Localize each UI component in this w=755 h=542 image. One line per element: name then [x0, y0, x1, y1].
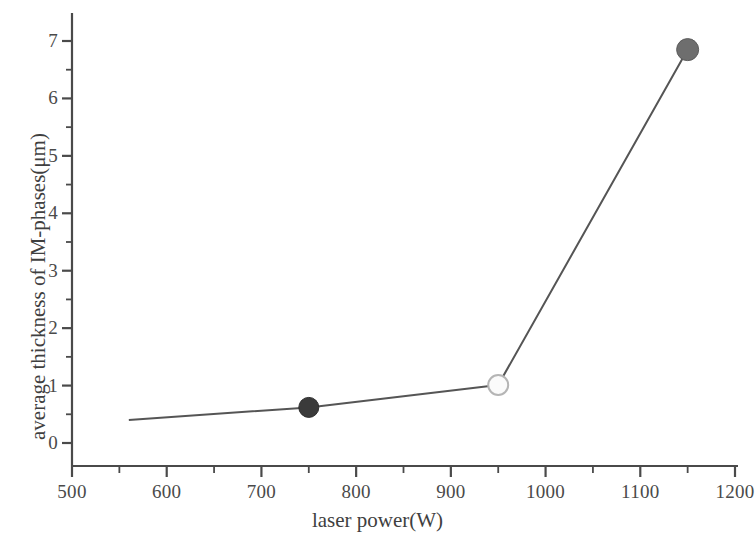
x-tick-label: 500: [57, 481, 86, 503]
y-axis-ticks: [62, 41, 72, 443]
data-series-line: [129, 50, 688, 420]
chart-figure: 01234567 500600700800900100011001200 las…: [0, 0, 755, 542]
x-tick-label: 600: [152, 481, 181, 503]
axis-lines: [72, 13, 738, 466]
plot-area: [0, 0, 755, 542]
data-point-marker: [488, 375, 508, 395]
data-point-marker: [299, 397, 319, 417]
y-tick-label: 6: [28, 87, 58, 109]
data-point-marker: [677, 39, 699, 61]
x-tick-label: 1000: [526, 481, 565, 503]
x-tick-label: 1100: [621, 481, 660, 503]
data-point-markers: [299, 39, 699, 418]
y-tick-label: 7: [28, 30, 58, 52]
x-tick-label: 900: [436, 481, 465, 503]
x-axis-ticks: [72, 466, 735, 477]
x-tick-label: 800: [341, 481, 370, 503]
x-tick-label: 700: [247, 481, 276, 503]
x-axis-title: laser power(W): [0, 508, 755, 533]
y-axis-title: average thickness of IM-phases(μm): [26, 133, 51, 440]
x-tick-label: 1200: [715, 481, 754, 503]
